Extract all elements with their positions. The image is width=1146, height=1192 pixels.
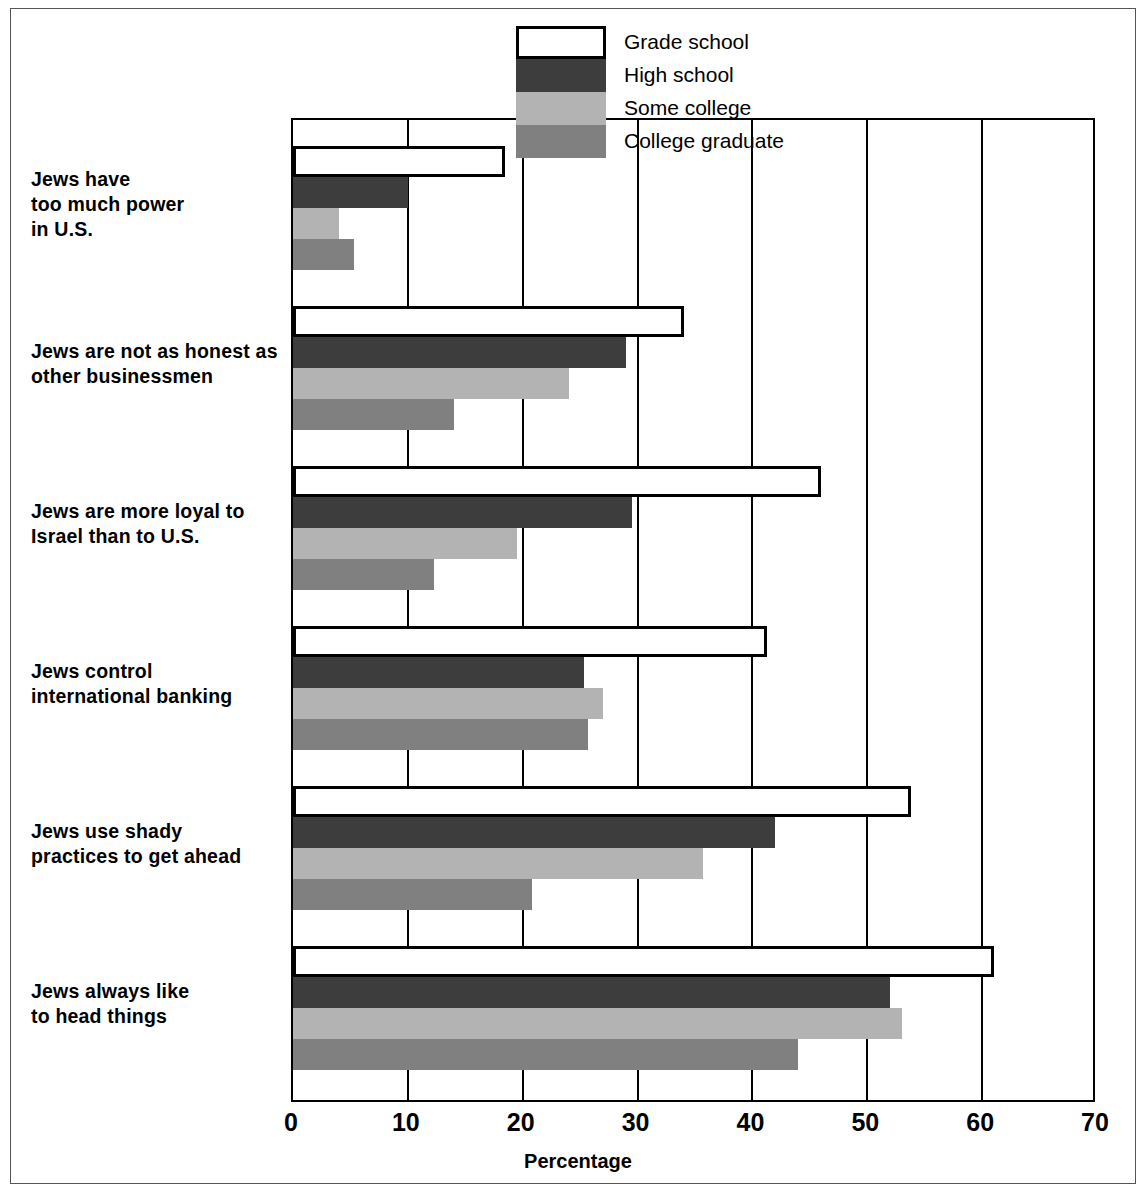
x-tick-label: 20 [491, 1108, 551, 1137]
x-axis-title-text: Percentage [524, 1150, 632, 1172]
x-axis-title: Percentage [0, 1150, 1146, 1173]
x-tick-label: 60 [950, 1108, 1010, 1137]
bar [293, 1039, 798, 1070]
bar [293, 786, 911, 817]
bar-group [293, 946, 1093, 1070]
bar [293, 657, 584, 688]
legend-label: Some college [624, 95, 751, 121]
category-label: Jews havetoo much powerin U.S. [31, 167, 281, 242]
bar-group [293, 626, 1093, 750]
plot-area [291, 118, 1095, 1102]
bar [293, 497, 632, 528]
legend-label: Grade school [624, 29, 749, 55]
x-tick-label: 0 [261, 1108, 321, 1137]
category-label-line: Jews are not as honest as [31, 339, 281, 364]
bar [293, 337, 626, 368]
x-tick-label: 40 [720, 1108, 780, 1137]
bar [293, 528, 517, 559]
category-label-line: other businessmen [31, 364, 281, 389]
legend-item[interactable]: College graduate [516, 125, 796, 158]
category-label: Jews always liketo head things [31, 979, 281, 1029]
category-label: Jews controlinternational banking [31, 659, 281, 709]
legend-swatch [516, 125, 606, 158]
bar-group [293, 786, 1093, 910]
legend-swatch [516, 59, 606, 92]
chart-page: Grade schoolHigh schoolSome collegeColle… [0, 0, 1146, 1192]
category-label: Jews are more loyal toIsrael than to U.S… [31, 499, 281, 549]
legend-swatch [516, 26, 606, 59]
bar [293, 466, 821, 497]
category-label: Jews use shadypractices to get ahead [31, 819, 281, 869]
bar [293, 399, 454, 430]
x-tick-label: 50 [835, 1108, 895, 1137]
bar [293, 559, 434, 590]
bar [293, 208, 339, 239]
category-label-line: international banking [31, 684, 281, 709]
bar [293, 688, 603, 719]
category-label-line: Jews use shady [31, 819, 281, 844]
bar [293, 879, 532, 910]
grouped-bar-chart: Grade schoolHigh schoolSome collegeColle… [0, 0, 1146, 1192]
category-label-line: Jews have [31, 167, 281, 192]
bar [293, 239, 354, 270]
legend-label: High school [624, 62, 734, 88]
bar [293, 626, 767, 657]
bar [293, 946, 994, 977]
legend-item[interactable]: Grade school [516, 26, 796, 59]
bar [293, 1008, 902, 1039]
bar [293, 848, 703, 879]
bar [293, 817, 775, 848]
legend-label: College graduate [624, 128, 784, 154]
bar [293, 146, 505, 177]
category-label-line: Israel than to U.S. [31, 524, 281, 549]
x-tick-label: 70 [1065, 1108, 1125, 1137]
category-label-line: practices to get ahead [31, 844, 281, 869]
bar [293, 368, 569, 399]
x-tick-label: 10 [376, 1108, 436, 1137]
legend-item[interactable]: High school [516, 59, 796, 92]
bar-group [293, 466, 1093, 590]
bar [293, 177, 408, 208]
bar-group [293, 306, 1093, 430]
category-label-line: Jews control [31, 659, 281, 684]
bar [293, 306, 684, 337]
bar-group [293, 146, 1093, 270]
category-label-line: too much power [31, 192, 281, 217]
chart-legend: Grade schoolHigh schoolSome collegeColle… [516, 26, 796, 158]
x-tick-label: 30 [606, 1108, 666, 1137]
category-label-line: to head things [31, 1004, 281, 1029]
bar [293, 719, 588, 750]
legend-item[interactable]: Some college [516, 92, 796, 125]
category-label: Jews are not as honest asother businessm… [31, 339, 281, 389]
category-label-line: Jews are more loyal to [31, 499, 281, 524]
bar [293, 977, 890, 1008]
category-label-line: in U.S. [31, 217, 281, 242]
legend-swatch [516, 92, 606, 125]
category-label-line: Jews always like [31, 979, 281, 1004]
